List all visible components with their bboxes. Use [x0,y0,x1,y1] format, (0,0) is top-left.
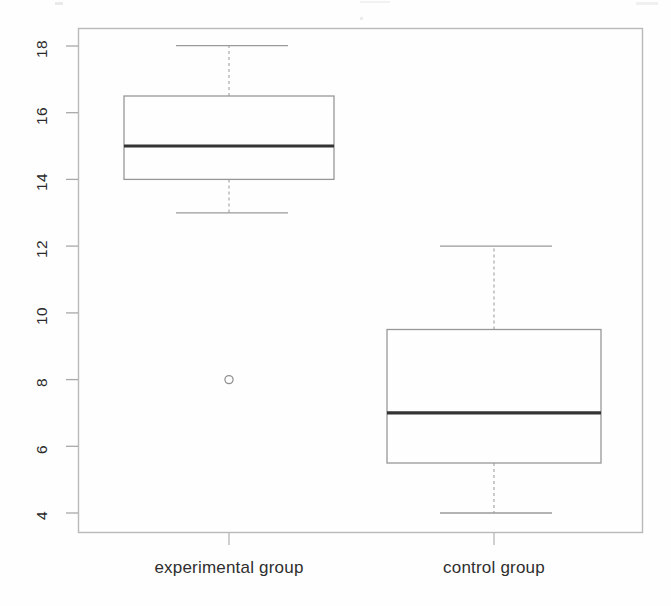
x-axis-ticks [229,533,494,545]
y-axis-label-6: 6 [33,442,51,454]
plot-frame [79,29,643,533]
y-axis-label-14: 14 [33,169,51,191]
box-control-group [387,246,601,513]
box-experimental-group [124,46,334,384]
y-axis-label-12: 12 [33,236,51,258]
plot-canvas [0,0,671,606]
x-axis-label-control-group: control group [404,558,584,578]
boxplot-figure: 18 16 14 12 10 8 6 4 experimental group … [0,0,671,606]
y-axis-label-16: 16 [33,103,51,125]
outlier-point-experimental-group [225,376,233,384]
y-axis-label-18: 18 [33,36,51,58]
x-axis-label-experimental-group: experimental group [119,558,339,578]
y-axis-label-10: 10 [33,303,51,325]
box-iqr-experimental-group [124,96,334,179]
y-axis-ticks [66,46,78,513]
y-axis-label-8: 8 [33,375,51,387]
y-axis-label-4: 4 [33,508,51,520]
box-iqr-control-group [387,330,601,464]
